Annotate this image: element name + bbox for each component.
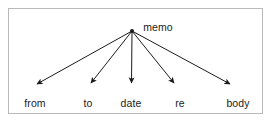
root-node-label: memo <box>143 21 173 33</box>
leaf-label-to: to <box>84 97 93 109</box>
leaf-label-from: from <box>24 97 45 109</box>
leaf-label-re: re <box>175 97 185 109</box>
root-node-dot <box>130 29 134 33</box>
edge-memo-to-to <box>91 31 132 83</box>
edge-memo-to-body <box>132 31 230 84</box>
edge-memo-to-from <box>37 31 132 84</box>
leaf-label-body: body <box>226 97 249 109</box>
edge-memo-to-re <box>132 31 174 83</box>
edge-memo-to-date <box>132 31 133 83</box>
diagram-screenshot: memo from to date re body <box>0 0 277 126</box>
leaf-label-date: date <box>121 97 142 109</box>
